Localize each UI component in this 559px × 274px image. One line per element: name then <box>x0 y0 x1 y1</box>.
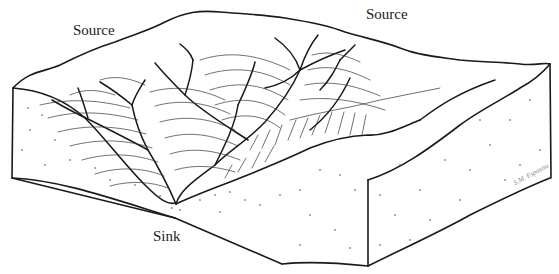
label-sink: Sink <box>153 228 181 245</box>
label-source-right: Source <box>366 6 408 23</box>
block-outline <box>12 11 551 266</box>
contour-lines <box>40 53 440 188</box>
stipple <box>21 99 541 249</box>
drainage-basin-diagram <box>0 0 559 274</box>
label-source-left: Source <box>73 22 115 39</box>
stream-network <box>52 35 495 204</box>
